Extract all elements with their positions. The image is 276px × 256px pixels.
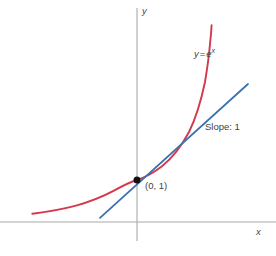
- y-axis-label: y: [142, 6, 147, 16]
- point-marker-0-1: [134, 177, 141, 184]
- point-coordinate-label: (0, 1): [145, 181, 167, 191]
- slope-annotation: Slope: 1: [205, 122, 240, 132]
- x-axis-label: x: [256, 227, 261, 237]
- curve-equation-label: y=ex: [194, 49, 215, 59]
- exponential-curve: [32, 25, 211, 214]
- equation-exponent: x: [212, 47, 216, 54]
- tangent-line: [100, 84, 248, 218]
- exponential-function-figure: y x y=ex Slope: 1 (0, 1): [0, 0, 276, 256]
